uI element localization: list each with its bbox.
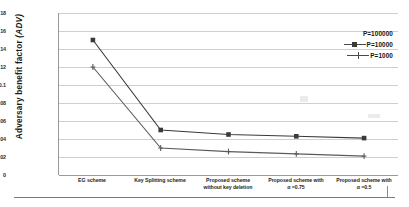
y-tick-label: 0 [0, 172, 6, 178]
legend-marker-square-icon [344, 40, 366, 49]
legend-label: P=1000 [370, 52, 393, 59]
y-tick-label: 0.16 [0, 28, 6, 34]
y-tick-label: 0.14 [0, 46, 6, 52]
y-tick-label: 0.04 [0, 136, 6, 142]
data-point-marker [226, 132, 231, 137]
chart-figure: Adversary benefit factor (ADV) 0.180.160… [0, 0, 409, 207]
y-tick-label: 0.08 [0, 100, 6, 106]
data-point-marker [91, 38, 96, 43]
legend-item[interactable]: P=10000 [295, 39, 393, 50]
y-tick-label: 0.1 [0, 82, 6, 88]
page-tick-mark [387, 186, 388, 197]
y-axis-title: Adversary benefit factor (ADV) [15, 2, 24, 152]
legend-label: P=100000 [363, 30, 393, 37]
series-line [93, 67, 364, 156]
data-point-marker [294, 134, 299, 139]
data-point-marker [226, 149, 231, 155]
x-axis-category-label: EG scheme [58, 177, 126, 184]
y-tick-label: 0.06 [0, 118, 6, 124]
legend-item[interactable]: P=1000 [295, 50, 393, 61]
data-point-marker [158, 128, 163, 133]
scan-smudge-2 [368, 114, 380, 118]
x-axis-category-label: Proposed scheme withα =0.75 [262, 177, 330, 191]
x-axis-category-label: Proposed schemewithout key deletion [194, 177, 262, 191]
bottom-rule [14, 197, 395, 198]
y-tick-label: 0.18 [0, 10, 6, 16]
legend-item[interactable]: P=100000 [295, 28, 393, 39]
scan-smudge [300, 96, 308, 102]
x-axis-category-label: Key Splitting scheme [126, 177, 194, 184]
data-point-marker [294, 151, 299, 157]
y-axis-title-units: (ADV) [15, 14, 24, 38]
y-tick-label: 0.12 [0, 64, 6, 70]
legend: P=100000P=10000P=1000 [295, 28, 393, 61]
y-tick-label: 0.02 [0, 154, 6, 160]
data-point-marker [362, 136, 367, 141]
data-point-marker [362, 153, 367, 159]
legend-label: P=10000 [367, 41, 393, 48]
x-axis-labels: EG schemeKey Splitting schemeProposed sc… [58, 177, 398, 199]
gridline [59, 175, 398, 176]
legend-marker-plus-icon [347, 51, 369, 60]
y-axis-title-text: Adversary benefit factor [15, 40, 24, 139]
